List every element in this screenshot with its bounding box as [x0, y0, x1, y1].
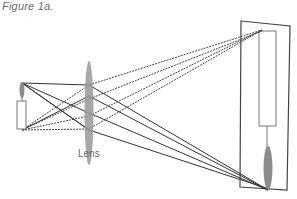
light-rays-solid	[22, 83, 268, 190]
object-candle	[17, 96, 26, 129]
image-flame	[264, 146, 273, 190]
light-rays-dashed	[22, 30, 262, 130]
object-flame	[20, 82, 25, 98]
optics-diagram	[0, 0, 297, 199]
lens-label: Lens	[78, 148, 100, 159]
